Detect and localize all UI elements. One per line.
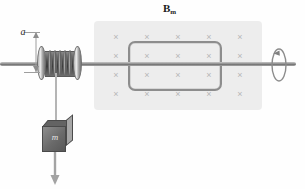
rotation-direction-arrow	[268, 46, 290, 83]
spool-flange-right	[73, 46, 82, 80]
figure-canvas: ×××××××××××××××××××× Bm a m	[0, 0, 305, 189]
radius-dimension-a	[30, 30, 42, 74]
spool-coil-turn	[58, 50, 62, 76]
spool-coil-turn	[63, 50, 67, 76]
mass-label: m	[47, 132, 63, 142]
field-into-page-marker: ×	[236, 71, 245, 80]
dimension-label-a: a	[16, 26, 30, 37]
spool-coil-turn	[48, 50, 52, 76]
suspension-string	[55, 73, 57, 121]
field-into-page-marker: ×	[236, 52, 245, 61]
field-into-page-marker: ×	[112, 33, 121, 42]
dimension-tick-bottom	[24, 72, 40, 73]
field-into-page-marker: ×	[112, 90, 121, 99]
weight-direction-arrow	[48, 152, 62, 186]
magnetic-field-label: Bm	[163, 2, 193, 16]
spool-coil-turn	[68, 50, 72, 76]
field-into-page-marker: ×	[112, 71, 121, 80]
field-label-subscript: m	[170, 8, 176, 16]
spool-drum	[37, 46, 83, 80]
hanging-mass-block: m	[42, 120, 74, 152]
current-loop	[128, 41, 222, 91]
field-into-page-marker: ×	[236, 33, 245, 42]
field-into-page-marker: ×	[236, 90, 245, 99]
mass-block-side-face	[66, 114, 73, 146]
field-into-page-marker: ×	[112, 52, 121, 61]
